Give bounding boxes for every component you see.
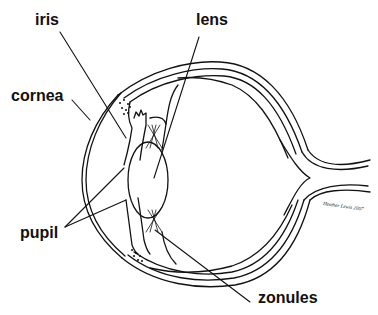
label-zonules: zonules <box>258 290 318 306</box>
label-iris: iris <box>35 12 59 28</box>
zonules-leader <box>155 230 250 302</box>
label-pupil: pupil <box>20 225 58 241</box>
sclera-top <box>118 62 308 158</box>
iris-lower <box>126 198 176 264</box>
cornea-leader <box>72 100 90 120</box>
label-cornea: cornea <box>11 88 63 104</box>
lens-leader <box>154 37 199 178</box>
iris-leader <box>60 32 126 138</box>
eye-diagram: Heather Lewis 2007 <box>0 0 378 315</box>
leader-lines <box>60 32 250 302</box>
pupil-leader-lower <box>65 200 126 227</box>
iris-upper <box>124 85 178 165</box>
label-lens: lens <box>196 12 228 28</box>
artist-signature: Heather Lewis 2007 <box>322 201 364 212</box>
